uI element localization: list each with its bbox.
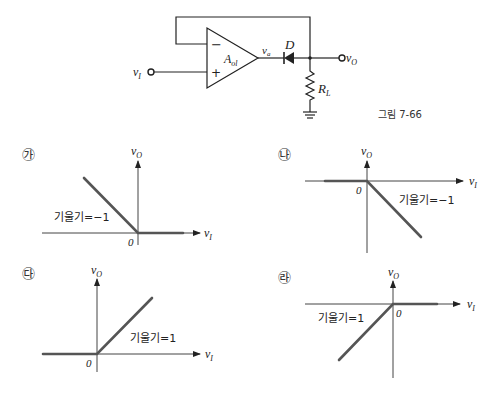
graph-na: ㉯ vO vI 0 기울기=−1 — [278, 144, 477, 253]
slope-label: 기울기=1 — [130, 332, 176, 345]
origin-label: 0 — [396, 307, 402, 319]
y-axis-label: vO — [91, 263, 102, 279]
opamp-circuit: vI − + Aol va D vO RL — [133, 17, 357, 118]
graph-marker: ㉱ — [278, 270, 291, 285]
y-axis-label: vO — [131, 144, 142, 160]
opamp-output-label: va — [262, 44, 271, 58]
graph-marker: ㉰ — [22, 266, 35, 281]
origin-label: 0 — [356, 184, 362, 196]
output-terminal — [339, 55, 345, 61]
graph-ra: ㉱ vO vI 0 기울기=1 — [278, 265, 475, 378]
x-axis-label: vI — [469, 174, 477, 190]
x-axis-label: vI — [467, 297, 475, 313]
graph-ga: ㉮ vO vI 0 기울기=−1 — [22, 144, 212, 248]
diode-symbol — [284, 52, 310, 64]
graph-marker: ㉮ — [22, 147, 35, 162]
figure-canvas: vI − + Aol va D vO RL 그림 7-66 — [0, 0, 494, 394]
ground-icon — [303, 112, 317, 118]
origin-label: 0 — [86, 357, 92, 369]
slope-label: 기울기=1 — [318, 312, 364, 325]
slope-label: 기울기=−1 — [54, 211, 109, 224]
figure-caption: 그림 7-66 — [378, 109, 422, 120]
x-axis-label: vI — [204, 226, 212, 242]
transfer-curve — [325, 181, 421, 237]
slope-label: 기울기=−1 — [399, 194, 454, 207]
input-label: vI — [133, 65, 141, 81]
output-label: vO — [346, 51, 357, 67]
transfer-curve — [84, 178, 183, 233]
input-terminal — [148, 69, 154, 75]
resistor-label: RL — [317, 81, 331, 98]
graph-marker: ㉯ — [278, 147, 291, 162]
y-axis-label: vO — [388, 265, 399, 281]
load-resistor — [306, 58, 314, 112]
origin-label: 0 — [128, 236, 134, 248]
x-axis-label: vI — [205, 347, 213, 363]
noninverting-input-sign: + — [211, 66, 221, 80]
diode-label: D — [284, 37, 295, 52]
y-axis-label: vO — [361, 144, 372, 160]
graph-da: ㉰ vO vI 0 기울기=1 — [22, 263, 213, 372]
inverting-input-sign: − — [211, 37, 222, 52]
